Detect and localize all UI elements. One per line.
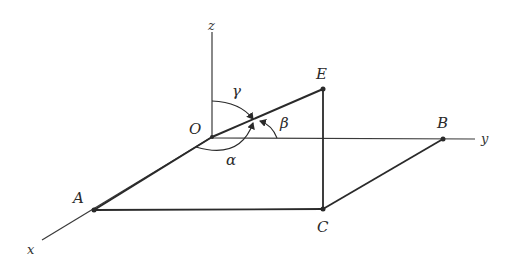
x-axis-label: x [27, 242, 35, 257]
y-axis-label: y [480, 131, 489, 146]
point-B-dot [441, 137, 446, 142]
point-A-label: A [71, 189, 84, 207]
vector-diagram: z y x O E B A C γ α β [0, 0, 518, 275]
z-axis-label: z [207, 18, 215, 33]
point-A-dot [92, 208, 97, 213]
point-E-label: E [315, 65, 327, 83]
point-C-label: C [317, 218, 329, 236]
vector-OE [212, 89, 323, 137]
angle-gamma-label: γ [232, 82, 241, 100]
point-O-label: O [189, 120, 201, 138]
angle-gamma-arc [212, 101, 253, 119]
point-O-dot [210, 135, 214, 139]
y-axis [212, 138, 475, 139]
angle-beta-arc [260, 121, 277, 138]
point-E-dot [321, 87, 326, 92]
angle-beta-label: β [279, 114, 289, 132]
point-C-dot [321, 207, 326, 212]
segment-CB [323, 139, 443, 209]
angle-alpha-label: α [226, 151, 236, 169]
segment-OA [94, 137, 212, 210]
segment-AC [94, 209, 323, 210]
point-B-label: B [436, 114, 448, 132]
angle-alpha-arc [196, 123, 253, 150]
